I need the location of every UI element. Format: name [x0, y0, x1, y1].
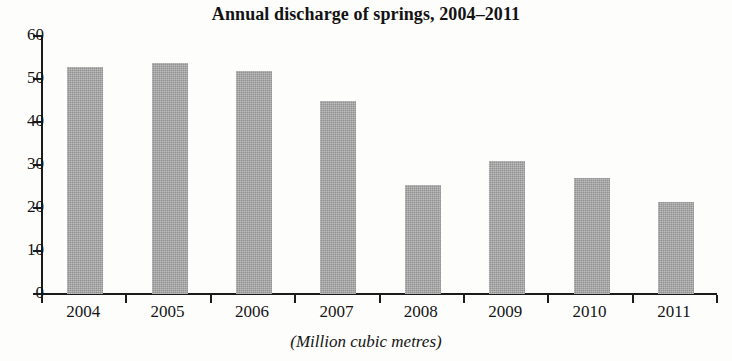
x-axis-tick-label: 2006 [219, 302, 285, 322]
x-axis-tick [632, 295, 634, 303]
x-axis-tick-label: 2008 [388, 302, 454, 322]
x-axis-tick [125, 295, 127, 303]
chart-caption: (Million cubic metres) [0, 332, 732, 352]
y-axis-tick-label: 10 [14, 240, 44, 260]
bar-2005 [152, 63, 188, 294]
y-axis-ticks: 0102030405060 [0, 0, 44, 330]
plot-area: 0102030405060 20042005200620072008200920… [0, 0, 732, 330]
y-axis-tick-label: 0 [14, 283, 44, 303]
bar-2004 [67, 67, 103, 294]
x-axis-tick-label: 2004 [50, 302, 116, 322]
y-axis-tick-label: 40 [14, 111, 44, 131]
x-axis-tick-label: 2007 [303, 302, 369, 322]
x-axis-tick [547, 295, 549, 303]
y-axis-tick-label: 60 [14, 25, 44, 45]
x-axis-tick [463, 295, 465, 303]
x-axis-tick [294, 295, 296, 303]
bar-2010 [574, 178, 610, 294]
y-axis-tick-label: 30 [14, 154, 44, 174]
bar-2011 [658, 202, 694, 294]
x-axis-tick [716, 295, 718, 303]
bar-2007 [320, 101, 356, 295]
x-axis-tick [41, 295, 43, 303]
y-axis-tick-label: 20 [14, 197, 44, 217]
x-axis-tick-label: 2005 [135, 302, 201, 322]
bar-2009 [489, 161, 525, 294]
x-axis-tick-label: 2009 [472, 302, 538, 322]
x-axis-tick-label: 2010 [557, 302, 623, 322]
bar-2006 [236, 71, 272, 294]
x-axis-tick [210, 295, 212, 303]
x-axis-tick-label: 2011 [641, 302, 707, 322]
y-axis-tick-label: 50 [14, 68, 44, 88]
x-axis-tick [379, 295, 381, 303]
bar-2008 [405, 185, 441, 294]
chart-figure: Annual discharge of springs, 2004–2011 0… [0, 0, 732, 361]
